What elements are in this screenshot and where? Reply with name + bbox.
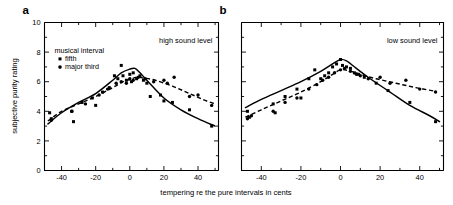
- data-point-major-third: [196, 93, 199, 96]
- data-point-fifth: [91, 96, 94, 99]
- data-point-major-third: [271, 110, 274, 113]
- data-point-fifth: [149, 95, 152, 98]
- panel-b: -40-2002040blow sound level: [220, 4, 444, 182]
- data-point-major-third: [188, 95, 191, 98]
- data-point-fifth: [162, 99, 165, 102]
- data-point-fifth: [313, 68, 316, 71]
- data-point-fifth: [349, 67, 352, 70]
- data-point-fifth: [363, 76, 366, 79]
- data-point-fifth: [323, 74, 326, 77]
- x-tick-label: 0: [338, 173, 342, 182]
- data-point-major-third: [143, 77, 146, 80]
- data-point-fifth: [101, 91, 104, 94]
- panel-b-axis-spines: [242, 23, 444, 171]
- figure-container: 0246810-40-2002040ahigh sound level-40-2…: [0, 0, 453, 205]
- data-point-major-third: [106, 87, 109, 90]
- data-point-fifth: [387, 89, 390, 92]
- data-point-major-third: [343, 67, 346, 70]
- data-point-major-third: [388, 81, 391, 84]
- data-point-fifth: [246, 110, 249, 113]
- purity-rating-figure: 0246810-40-2002040ahigh sound level-40-2…: [0, 0, 453, 205]
- data-point-major-third: [120, 80, 123, 83]
- data-point-major-third: [250, 114, 253, 117]
- legend-title: musical interval: [55, 46, 105, 55]
- data-point-major-third: [378, 76, 381, 79]
- data-point-major-third: [210, 104, 213, 107]
- data-point-fifth: [408, 101, 411, 104]
- data-point-major-third: [84, 102, 87, 105]
- data-point-major-third: [246, 117, 249, 120]
- data-point-major-third: [418, 87, 421, 90]
- data-point-major-third: [152, 80, 155, 83]
- data-point-major-third: [137, 76, 140, 79]
- data-point-major-third: [132, 79, 135, 82]
- data-point-fifth: [335, 62, 338, 65]
- legend-label-major-third: major third: [65, 62, 99, 71]
- panel-label-a: a: [23, 4, 30, 16]
- data-point-major-third: [315, 83, 318, 86]
- data-point-major-third: [97, 93, 100, 96]
- data-point-major-third: [339, 68, 342, 71]
- data-point-major-third: [166, 81, 169, 84]
- data-point-fifth: [72, 120, 75, 123]
- panel-label-b: b: [220, 4, 227, 16]
- x-tick-label: -20: [90, 173, 101, 182]
- data-point-major-third: [355, 73, 358, 76]
- data-point-fifth: [48, 111, 51, 114]
- data-point-fifth: [121, 74, 124, 77]
- x-tick-label: 0: [128, 173, 132, 182]
- data-point-fifth: [125, 79, 128, 82]
- data-point-fifth: [132, 71, 135, 74]
- data-point-major-third: [321, 79, 324, 82]
- x-axis-title: tempering re the pure intervals in cents: [160, 188, 291, 197]
- data-point-major-third: [367, 77, 370, 80]
- data-point-fifth: [210, 125, 213, 128]
- data-point-fifth: [284, 95, 287, 98]
- x-tick-label: 40: [194, 173, 202, 182]
- data-point-major-third: [70, 110, 73, 113]
- y-tick-label: 0: [36, 166, 40, 175]
- y-axis-title: subjective purity rating: [10, 58, 19, 134]
- data-point-major-third: [172, 76, 175, 79]
- data-point-fifth: [339, 58, 342, 61]
- panel-a: 0246810-40-2002040ahigh sound level: [23, 4, 219, 182]
- y-tick-label: 10: [32, 18, 40, 27]
- data-point-fifth: [128, 73, 131, 76]
- x-tick-label: -40: [256, 173, 267, 182]
- y-tick-label: 8: [36, 48, 40, 57]
- data-point-fifth: [375, 82, 378, 85]
- data-point-fifth: [341, 64, 344, 67]
- data-point-major-third: [114, 81, 117, 84]
- data-point-major-third: [333, 71, 336, 74]
- legend-marker-major-third: [58, 65, 62, 69]
- data-point-major-third: [295, 96, 298, 99]
- data-point-major-third: [162, 79, 165, 82]
- annotation-b: low sound level: [387, 36, 438, 45]
- data-point-major-third: [359, 74, 362, 77]
- x-tick-label: -20: [296, 173, 307, 182]
- panel-b-frame-top-right: [242, 23, 444, 171]
- data-point-major-third: [404, 79, 407, 82]
- data-point-fifth: [113, 74, 116, 77]
- data-point-major-third: [283, 101, 286, 104]
- data-point-major-third: [125, 81, 128, 84]
- x-tick-label: 20: [160, 173, 168, 182]
- data-point-fifth: [94, 104, 97, 107]
- data-point-fifth: [331, 65, 334, 68]
- data-point-fifth: [295, 88, 298, 91]
- legend-marker-fifth: [59, 57, 62, 60]
- data-point-fifth: [272, 102, 275, 105]
- data-point-major-third: [50, 118, 53, 121]
- legend: musical intervalfifthmajor third: [55, 46, 105, 72]
- data-point-major-third: [307, 87, 310, 90]
- data-point-fifth: [81, 101, 84, 104]
- x-tick-label: -40: [56, 173, 67, 182]
- annotation-a: high sound level: [159, 36, 213, 45]
- data-point-major-third: [128, 77, 131, 80]
- y-tick-label: 6: [36, 77, 40, 86]
- data-point-fifth: [327, 71, 330, 74]
- data-point-fifth: [299, 96, 302, 99]
- data-point-fifth: [116, 77, 119, 80]
- data-point-fifth: [171, 101, 174, 104]
- data-point-fifth: [159, 94, 162, 97]
